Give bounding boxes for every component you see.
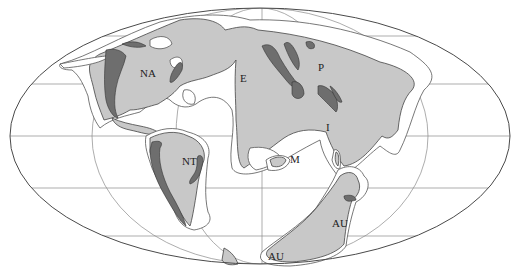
world-map: NA E P I NT M AU AU: [0, 0, 516, 280]
island-m: [266, 156, 290, 171]
label-e: E: [240, 72, 247, 84]
label-au-east: AU: [332, 217, 348, 229]
label-na: NA: [140, 67, 156, 79]
laurasia: [60, 15, 432, 176]
label-au-south: AU: [268, 250, 284, 262]
label-p: P: [318, 61, 324, 73]
south-america: [145, 129, 210, 230]
label-m: M: [290, 153, 300, 165]
label-nt: NT: [182, 155, 197, 167]
label-i: I: [326, 121, 330, 133]
